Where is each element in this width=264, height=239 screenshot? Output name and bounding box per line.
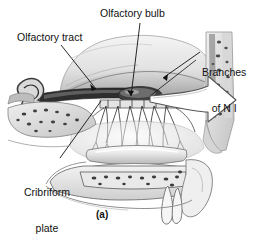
label-cribriform-line2: plate xyxy=(12,222,82,234)
label-olfactory-bulb: Olfactory bulb xyxy=(100,7,165,19)
label-branches-line2: of N I xyxy=(202,102,246,114)
label-cribriform-plate: Cribriform plate xyxy=(12,162,82,239)
label-cribriform-line1: Cribriform xyxy=(12,186,82,198)
label-branches-of-n1: Branches of N I xyxy=(202,42,246,138)
panel-label: (a) xyxy=(96,209,108,221)
label-olfactory-tract: Olfactory tract xyxy=(17,31,82,43)
olfactory-system-figure: Olfactory tract Olfactory bulb Branches … xyxy=(0,0,264,239)
label-branches-line1: Branches xyxy=(202,66,246,78)
